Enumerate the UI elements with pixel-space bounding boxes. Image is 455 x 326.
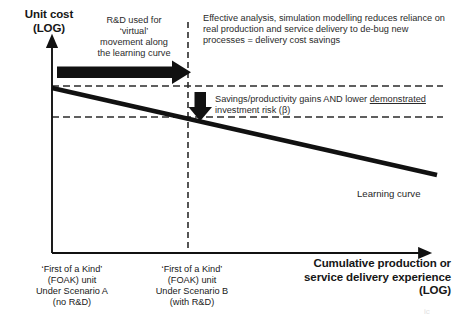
x-axis-title: Cumulative production or service deliver… xyxy=(268,257,451,298)
x-marker-label-scenario-b: ‘First of a Kind’ (FOAK) unit Under Scen… xyxy=(128,264,256,307)
savings-text-underlined: demonstrated xyxy=(370,94,426,104)
faint-watermark: ic xyxy=(424,307,430,316)
learning-curve-label: Learning curve xyxy=(357,188,420,199)
x-marker-label-scenario-a: ‘First of a Kind’ (FOAK) unit Under Scen… xyxy=(8,264,136,307)
savings-text-prefix: Savings/productivity gains AND lower xyxy=(215,94,370,104)
savings-text-suffix: investment risk (β) xyxy=(215,105,290,115)
learning-curve-diagram: Unit cost (LOG) Cumulative production or… xyxy=(0,0,455,326)
virtual-movement-arrow xyxy=(57,61,191,85)
annotation-savings-investment-risk: Savings/productivity gains AND lower dem… xyxy=(215,94,453,116)
annotation-effective-analysis: Effective analysis, simulation modelling… xyxy=(203,13,452,46)
annotation-rd-virtual-movement: R&D used for ‘virtual’ movement along th… xyxy=(71,15,197,58)
